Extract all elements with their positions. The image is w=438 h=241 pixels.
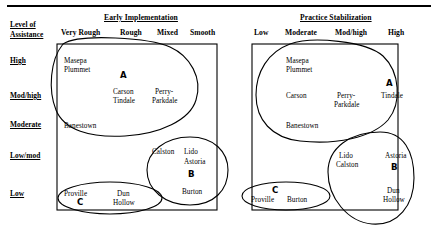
row-header-high: High	[10, 57, 26, 66]
column-header-rough: Rough	[120, 29, 142, 38]
row-header-low-mod: Low/mod	[10, 152, 40, 161]
cell-hollow-left: Hollow	[113, 199, 135, 208]
region-outline-b-right	[328, 132, 414, 224]
row-header-mod-high: Mod/high	[10, 92, 41, 101]
cell-calston-right: Calston	[336, 161, 358, 170]
cell-carson-right: Carson	[286, 92, 307, 101]
column-header-low: Low	[254, 29, 269, 38]
region-outline-a-right	[256, 40, 397, 142]
cell-burton-left: Burton	[182, 188, 202, 197]
cell-lido-left: Lido	[184, 148, 198, 157]
cell-dun-left: Dun	[117, 190, 130, 199]
cell-parkdale-right: Parkdale	[334, 101, 360, 110]
cell-dun-right: Dun	[387, 187, 400, 196]
cell-burton-right: Burton	[287, 196, 307, 205]
column-header-mod-high: Mod/high	[335, 29, 367, 38]
figure-canvas: Level of Assistance High Mod/high Modera…	[0, 0, 438, 241]
cell-lido-right: Lido	[339, 152, 353, 161]
row-header-moderate: Moderate	[10, 121, 41, 130]
level-of-assistance-line2: Assistance	[10, 30, 43, 40]
region-tag-a-right: A	[386, 79, 393, 88]
column-header-moderate: Moderate	[285, 29, 317, 38]
cell-hollow-right: Hollow	[383, 196, 405, 205]
cell-perry-right: Perry-	[337, 92, 355, 101]
top-horizontal-rule	[7, 5, 431, 7]
column-header-smooth: Smooth	[190, 29, 215, 38]
cell-proville-right: Proville	[251, 196, 274, 205]
region-tag-b-right: B	[391, 163, 398, 172]
cell-calston-left: Calston	[152, 148, 174, 157]
cell-proville-left: Proville	[64, 190, 87, 199]
region-tag-a-left: A	[120, 71, 127, 80]
panel-title-practice-stabilization: Practice Stabilization	[300, 14, 372, 23]
cell-masepa-left: Masepa	[64, 57, 87, 66]
cell-plummet-right: Plummet	[286, 66, 312, 75]
cell-banestown-left: Banestown	[64, 122, 96, 131]
region-tag-c-left: C	[77, 198, 83, 207]
cell-carson-left: Carson	[113, 88, 134, 97]
region-tag-c-right: C	[272, 186, 278, 195]
cell-banestown-right: Banestown	[286, 122, 318, 131]
cell-perry-left: Perry-	[155, 88, 173, 97]
region-tag-b-left: B	[188, 170, 195, 179]
column-header-high: High	[388, 29, 404, 38]
level-of-assistance-line1: Level of	[10, 20, 43, 30]
cell-tindale-right: Tindale	[381, 92, 403, 101]
row-header-low: Low	[10, 190, 24, 199]
column-header-mixed: Mixed	[157, 29, 178, 38]
cell-astoria-right: Astoria	[385, 152, 407, 161]
panel-title-early-implementation: Early Implementation	[104, 14, 178, 23]
cell-masepa-right: Masepa	[286, 57, 309, 66]
level-of-assistance-label: Level of Assistance	[10, 20, 43, 39]
column-header-very-rough: Very Rough	[61, 29, 100, 38]
cell-tindale-left: Tindale	[113, 97, 135, 106]
cell-plummet-left: Plummet	[64, 66, 90, 75]
cell-astoria-left: Astoria	[184, 158, 206, 167]
cell-parkdale-left: Parkdale	[152, 97, 178, 106]
